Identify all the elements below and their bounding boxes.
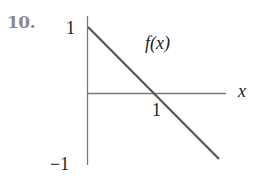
x-tick-label-1: 1 [152, 101, 161, 119]
function-graph [0, 0, 261, 186]
y-tick-label-minus-1: −1 [50, 155, 69, 173]
x-axis-label: x [238, 82, 246, 100]
y-tick-label-1: 1 [66, 19, 75, 37]
function-label: f(x) [145, 34, 170, 52]
